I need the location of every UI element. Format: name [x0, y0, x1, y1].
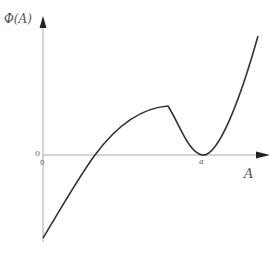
y-axis-arrow-icon	[40, 16, 47, 28]
phi-curve	[43, 36, 258, 238]
x-zero-tick-label: 0	[40, 159, 44, 167]
origin-tick-label: 0	[35, 149, 40, 158]
x-axis-label: A	[244, 166, 253, 181]
y-axis-label: Φ(A)	[4, 12, 32, 26]
x-tick-a-label: a	[199, 157, 204, 166]
x-axis-arrow-icon	[256, 152, 270, 159]
chart-canvas	[0, 0, 280, 256]
